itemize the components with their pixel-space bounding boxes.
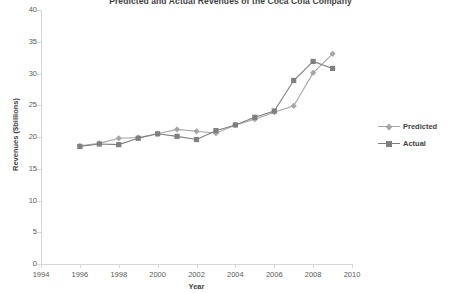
actual-marker-icon xyxy=(378,139,400,149)
data-point-predicted xyxy=(135,135,141,141)
x-tick-label: 2008 xyxy=(293,270,333,279)
x-tick-label: 1996 xyxy=(60,270,100,279)
data-point-predicted xyxy=(193,128,199,134)
legend-item-actual: Actual xyxy=(378,135,437,152)
data-point-actual xyxy=(311,59,316,64)
y-tick xyxy=(37,10,41,11)
y-tick-label: 40 xyxy=(0,5,37,14)
data-point-predicted xyxy=(291,103,297,109)
y-axis-line xyxy=(41,10,42,264)
data-point-predicted xyxy=(271,109,277,115)
legend-label-actual: Actual xyxy=(403,139,426,148)
legend-label-predicted: Predicted xyxy=(403,122,437,131)
data-point-actual xyxy=(213,128,218,133)
x-tick-label: 2010 xyxy=(332,270,372,279)
y-tick-label: 5 xyxy=(0,227,37,236)
chart-title: Predicted and Actual Revenues of the Coc… xyxy=(0,0,461,6)
y-tick xyxy=(37,74,41,75)
x-tick xyxy=(197,264,198,268)
x-tick-label: 2006 xyxy=(254,270,294,279)
data-point-actual xyxy=(252,115,257,120)
series-line-predicted xyxy=(80,54,333,146)
predicted-marker-icon xyxy=(378,122,400,132)
data-point-actual xyxy=(272,108,277,113)
y-tick-label: 0 xyxy=(0,259,37,268)
x-tick-label: 1994 xyxy=(21,270,61,279)
x-axis-title: Year xyxy=(41,282,352,291)
data-point-predicted xyxy=(155,131,161,137)
data-point-actual xyxy=(291,78,296,83)
x-tick xyxy=(41,264,42,268)
data-point-actual xyxy=(194,137,199,142)
x-tick xyxy=(158,264,159,268)
legend-item-predicted: Predicted xyxy=(378,118,437,135)
y-tick-label: 35 xyxy=(0,37,37,46)
data-point-predicted xyxy=(213,130,219,136)
x-tick-label: 2004 xyxy=(215,270,255,279)
y-tick xyxy=(37,169,41,170)
data-point-actual xyxy=(116,142,121,147)
x-tick-label: 1998 xyxy=(99,270,139,279)
y-axis-title: Revenues ($billions) xyxy=(11,65,20,205)
data-point-predicted xyxy=(77,143,83,149)
data-point-predicted xyxy=(232,122,238,128)
data-point-predicted xyxy=(310,70,316,76)
x-tick xyxy=(274,264,275,268)
data-point-actual xyxy=(77,144,82,149)
data-point-predicted xyxy=(174,126,180,132)
data-point-predicted xyxy=(96,140,102,146)
data-point-actual xyxy=(330,66,335,71)
x-tick-label: 2002 xyxy=(177,270,217,279)
y-tick xyxy=(37,105,41,106)
data-point-predicted xyxy=(329,51,335,57)
x-tick xyxy=(352,264,353,268)
y-tick xyxy=(37,42,41,43)
data-point-actual xyxy=(136,136,141,141)
y-tick xyxy=(37,232,41,233)
chart-legend: Predicted Actual xyxy=(378,118,437,152)
y-tick xyxy=(37,137,41,138)
x-tick xyxy=(119,264,120,268)
y-tick xyxy=(37,201,41,202)
x-tick xyxy=(80,264,81,268)
data-point-actual xyxy=(233,122,238,127)
data-point-actual xyxy=(155,131,160,136)
data-point-predicted xyxy=(116,135,122,141)
x-tick xyxy=(313,264,314,268)
data-point-actual xyxy=(174,134,179,139)
x-tick xyxy=(235,264,236,268)
series-line-actual xyxy=(80,61,333,146)
data-point-predicted xyxy=(252,116,258,122)
data-point-actual xyxy=(97,141,102,146)
revenue-line-chart: Predicted and Actual Revenues of the Coc… xyxy=(0,0,461,293)
x-tick-label: 2000 xyxy=(138,270,178,279)
